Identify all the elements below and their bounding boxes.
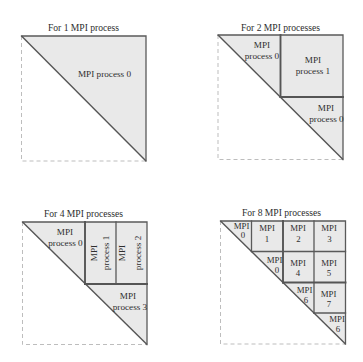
- block-label-line-2: process 2: [133, 235, 143, 270]
- block-label-line-2: 7: [327, 299, 332, 309]
- panel-title: For 2 MPI processes: [241, 22, 320, 33]
- block-label-line-2: process 0: [48, 238, 83, 248]
- block-label-line-1: MPI: [267, 255, 283, 265]
- block-label-line-1: MPI: [318, 103, 334, 113]
- block-label-line-2: 4: [296, 268, 301, 278]
- panel-2-processes: For 2 MPI processes MPI process 0 MPI pr…: [218, 22, 344, 160]
- block-label-line-1: MPI: [321, 289, 337, 299]
- block-label-line-1: MPI: [89, 245, 99, 261]
- block-label-line-2: 6: [336, 324, 341, 334]
- block-label-line-1: MPI: [254, 40, 270, 50]
- block-label-line-2: 1: [265, 234, 269, 244]
- block-label-process-0: MPI process 0: [78, 69, 131, 79]
- block-label-line-2: 0: [241, 230, 246, 240]
- block-label-line-1: MPI: [57, 227, 73, 237]
- mpi-partition-figure: For 1 MPI process MPI process 0 For 2 MP…: [0, 0, 363, 362]
- block-label-line-1: MPI: [297, 285, 313, 295]
- panel-8-processes: For 8 MPI processes MPI 0 MPI 1 MPI 2 MP…: [221, 207, 346, 344]
- block-label-line-1: MPI: [290, 223, 306, 233]
- block-label-line-1: MPI: [117, 245, 127, 261]
- diagram-canvas: For 1 MPI process MPI process 0 For 2 MP…: [0, 0, 363, 362]
- block-label-line-2: process 1: [101, 235, 111, 270]
- block-label-line-1: MPI: [329, 314, 345, 324]
- block-label-line-1: MPI: [305, 55, 321, 65]
- block-label-line-2: 2: [296, 234, 300, 244]
- block-label-line-2: process 0: [309, 114, 344, 124]
- block-label-line-1: MPI: [259, 223, 275, 233]
- block-label-line-1: MPI: [120, 291, 136, 301]
- block-label-line-1: MPI: [290, 258, 306, 268]
- block-label-line-2: 3: [327, 234, 332, 244]
- panel-title: For 1 MPI process: [48, 22, 119, 33]
- panel-4-processes: For 4 MPI processes MPI process 0 MPI pr…: [23, 208, 148, 345]
- panel-title: For 8 MPI processes: [242, 207, 321, 218]
- block-label-line-2: 0: [275, 265, 280, 275]
- panel-title: For 4 MPI processes: [44, 208, 123, 219]
- block-label-line-2: process 3: [113, 302, 148, 312]
- panel-1-process: For 1 MPI process MPI process 0: [22, 22, 147, 161]
- block-label-line-2: process 1: [296, 66, 331, 76]
- block-label-line-1: MPI: [321, 223, 337, 233]
- block-label-line-2: process 0: [245, 51, 280, 61]
- block-label-line-1: MPI: [321, 258, 337, 268]
- block-label-line-2: 5: [327, 268, 332, 278]
- block-label-line-2: 6: [304, 295, 309, 305]
